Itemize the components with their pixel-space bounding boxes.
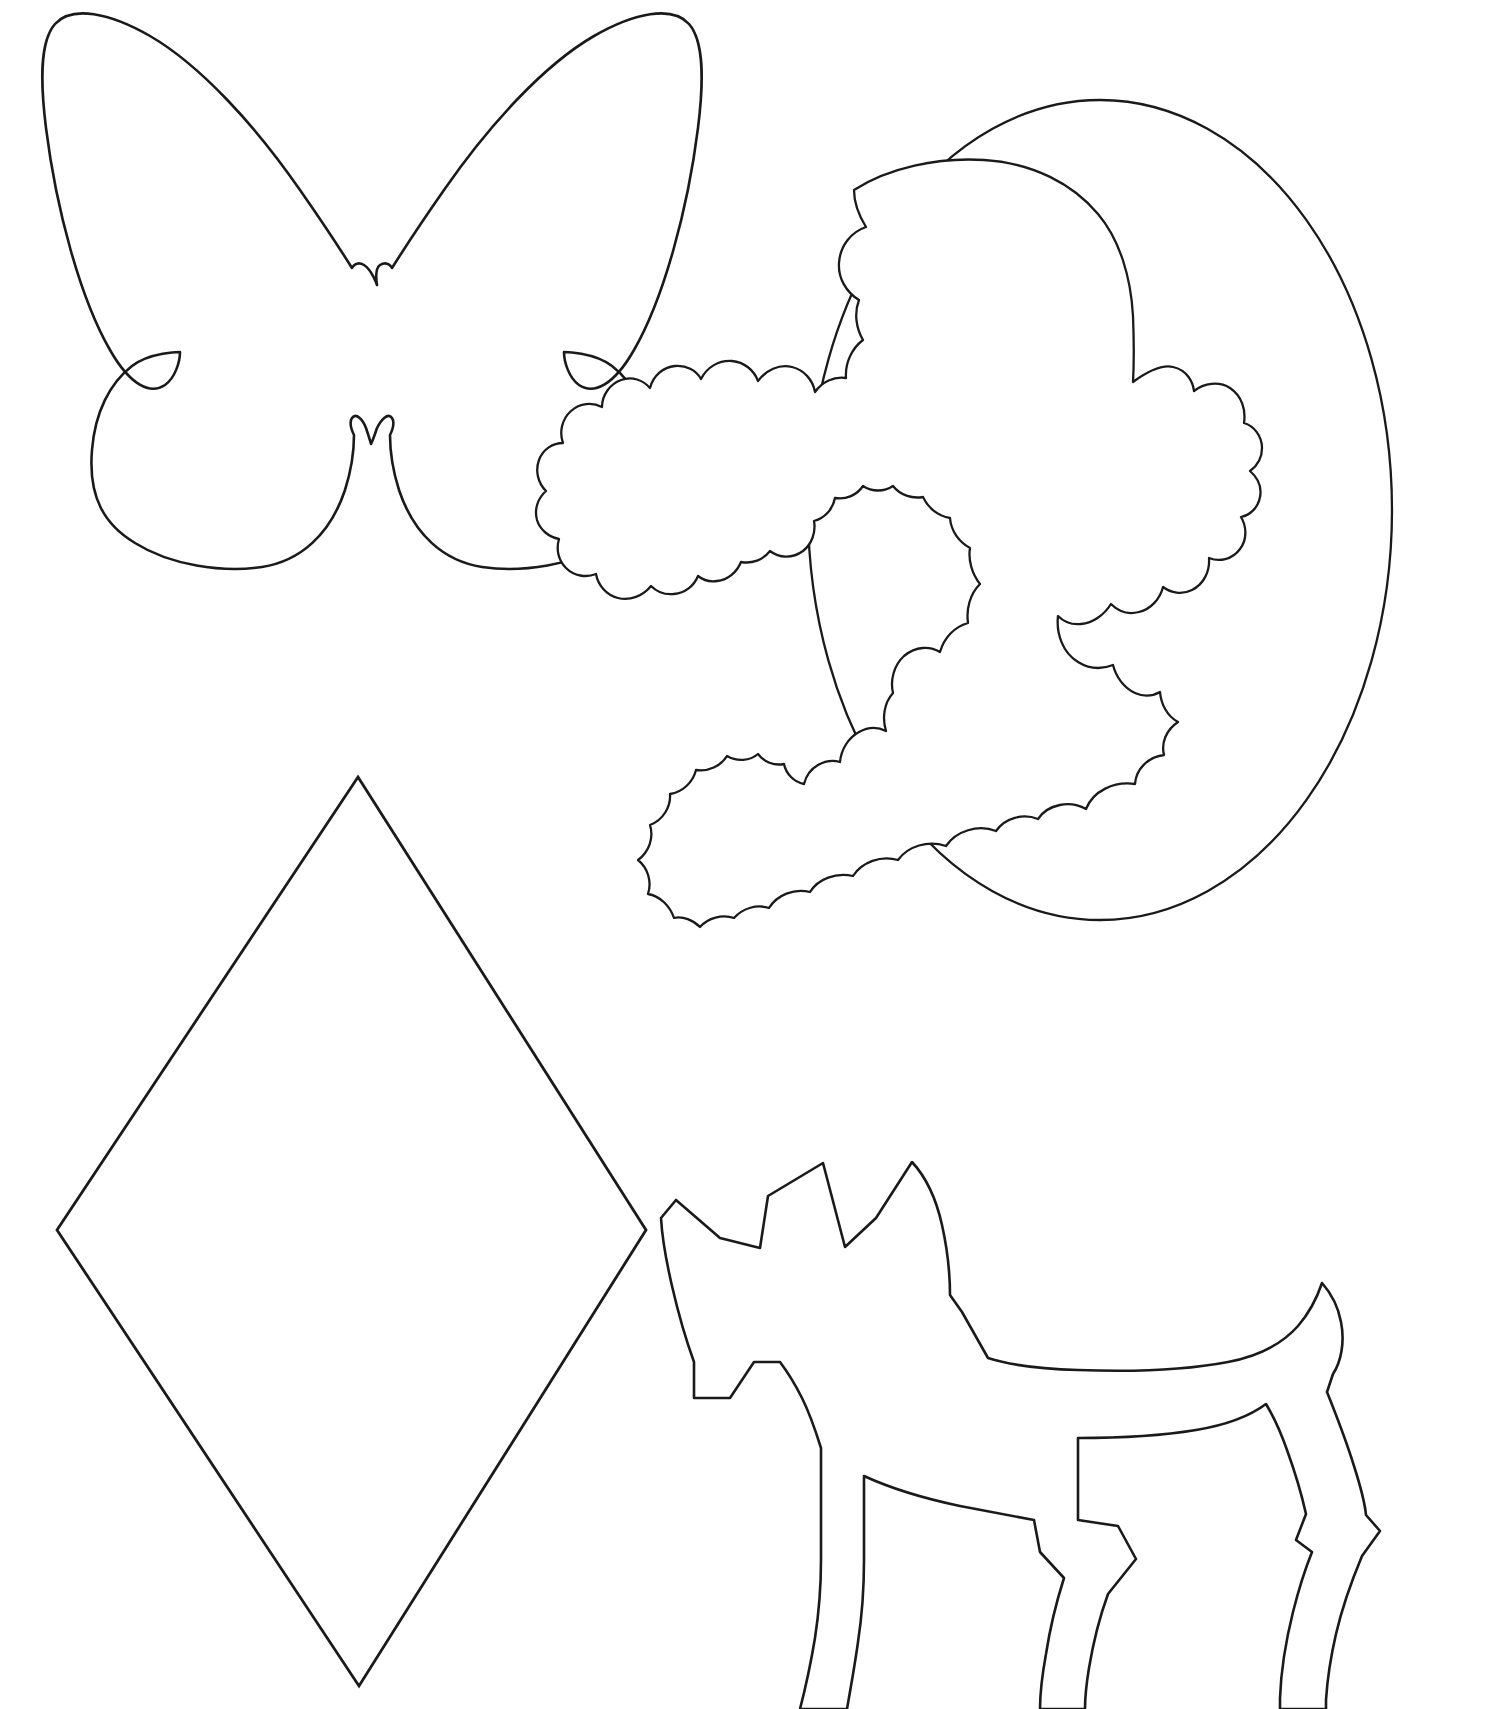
scottie-dog-outline [661, 1162, 1380, 1709]
template-sheet [0, 0, 1504, 1709]
diamond-outline [57, 777, 646, 1686]
shapes-canvas [0, 0, 1504, 1709]
